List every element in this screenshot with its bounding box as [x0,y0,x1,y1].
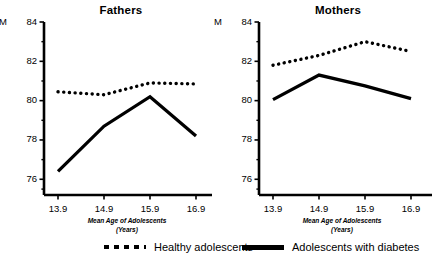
panel-fathers: Fathers 848280787613.914.915.916.9MMean … [0,0,218,235]
y-tick-label: 84 [230,16,252,27]
y-tick-label: 76 [15,173,37,184]
solid-line-swatch-icon [242,242,284,252]
y-tick-label: 80 [15,94,37,105]
x-tick-label: 16.9 [394,203,428,214]
y-tick-label: 78 [15,133,37,144]
y-tick-label: 84 [15,16,37,27]
x-axis-title: Mean Age of Adolescents(Years) [262,217,422,234]
dotted-line-swatch-icon [104,242,146,252]
legend-label-healthy: Healthy adolescents [154,241,253,253]
y-axis-prefix-label: M [214,16,222,27]
x-tick-label: 15.9 [133,203,167,214]
x-tick-label: 15.9 [348,203,382,214]
figure-two-panel-line-chart: Fathers 848280787613.914.915.916.9MMean … [0,0,437,267]
x-axis-title-line1: Mean Age of Adolescents [47,217,207,226]
y-axis-prefix-label: M [0,16,7,27]
y-tick-label: 78 [230,133,252,144]
y-tick-label: 82 [15,55,37,66]
plot-area-mothers [219,0,437,235]
legend-item-diabetes: Adolescents with diabetes [242,238,419,256]
legend-label-diabetes: Adolescents with diabetes [292,241,419,253]
plot-area-fathers [0,0,218,235]
x-axis-title: Mean Age of Adolescents(Years) [47,217,207,234]
panel-mothers: Mothers 848280787613.914.915.916.9MMean … [219,0,437,235]
x-axis-title-line2: (Years) [47,226,207,235]
x-axis-title-line2: (Years) [262,226,422,235]
y-tick-label: 76 [230,173,252,184]
x-tick-label: 14.9 [302,203,336,214]
x-tick-label: 13.9 [41,203,75,214]
y-tick-label: 82 [230,55,252,66]
y-tick-label: 80 [230,94,252,105]
legend-item-healthy: Healthy adolescents [104,238,253,256]
x-tick-label: 16.9 [179,203,213,214]
x-axis-title-line1: Mean Age of Adolescents [262,217,422,226]
legend: Healthy adolescents Adolescents with dia… [0,238,437,266]
x-tick-label: 13.9 [256,203,290,214]
x-tick-label: 14.9 [87,203,121,214]
panels-container: Fathers 848280787613.914.915.916.9MMean … [0,0,437,235]
